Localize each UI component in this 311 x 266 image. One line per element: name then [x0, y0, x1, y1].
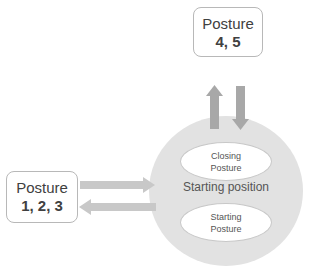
arrow-left-from-starting-position [79, 199, 156, 215]
closing-posture-line2: Posture [181, 162, 271, 174]
posture-1-2-3-numbers: 1, 2, 3 [7, 197, 77, 214]
starting-posture-ellipse: Starting Posture [180, 203, 272, 242]
starting-posture-line2: Posture [181, 223, 271, 235]
posture-4-5-numbers: 4, 5 [194, 33, 262, 50]
posture-4-5-title: Posture [194, 15, 262, 32]
posture-4-5-box: Posture 4, 5 [193, 7, 263, 57]
posture-1-2-3-title: Posture [7, 179, 77, 196]
arrow-right-to-starting-position [80, 177, 155, 193]
posture-1-2-3-box: Posture 1, 2, 3 [6, 171, 78, 223]
arrow-down-from-posture-4-5 [232, 86, 249, 130]
arrow-up-to-posture-4-5 [206, 85, 223, 129]
starting-position-label: Starting position [158, 180, 294, 194]
closing-posture-ellipse: Closing Posture [180, 142, 272, 181]
starting-posture-line1: Starting [181, 211, 271, 223]
closing-posture-line1: Closing [181, 150, 271, 162]
